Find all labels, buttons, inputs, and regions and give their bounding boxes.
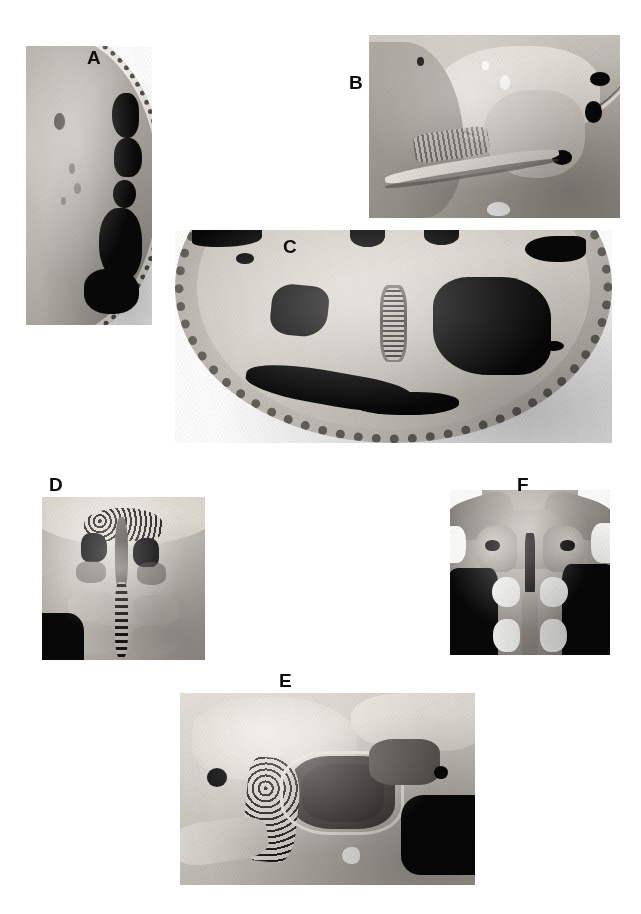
panel-label-c: C [283,237,297,256]
panel-label-d: D [49,475,63,494]
figure-root: A B [0,0,641,914]
panel-c-image [175,230,612,443]
panel-label-f: F [517,475,529,494]
panel-a-image [26,46,152,325]
panel-label-e: E [279,671,292,690]
panel-e-specimen [180,693,475,885]
panel-label-b: B [349,73,363,92]
panel-d-image [42,497,205,660]
panel-b-image [369,35,620,218]
panel-a-specimen [26,46,152,325]
panel-d-specimen [42,497,205,660]
panel-c-specimen [175,230,612,443]
panel-e-image [180,693,475,885]
panel-b-specimen [369,35,620,218]
panel-f-image [450,490,610,655]
panel-label-a: A [87,48,101,67]
panel-f-specimen [450,490,610,655]
